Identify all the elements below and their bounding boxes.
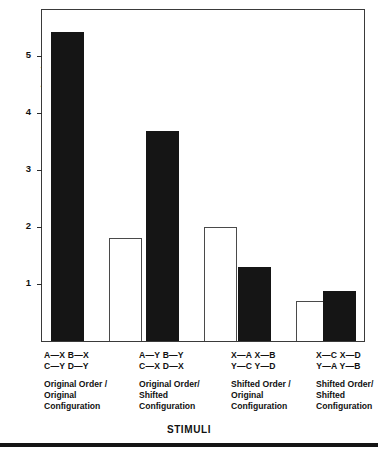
group-2-codes: A—Y B—YC—X D—X	[139, 350, 184, 372]
y-axis-tick-label-5: 5	[7, 49, 31, 60]
chart-figure: MEAN AMPLITUDE EYELID CLOSURE (mm) 12345…	[0, 0, 378, 451]
group-2-description-line2: Shifted	[139, 390, 200, 401]
bar-g2-filled	[146, 131, 179, 341]
group-3-codes: X—A X—BY—C Y—D	[231, 350, 276, 372]
group-3-description: Shifted Order /OriginalConfiguration	[231, 379, 291, 412]
bar-g1-open	[109, 238, 142, 341]
y-axis-tick-1	[37, 284, 42, 285]
group-2-code-line2: C—X D—X	[139, 361, 184, 372]
group-4-description-line2: Shifted	[316, 390, 373, 401]
group-2-description-line3: Configuration	[139, 401, 200, 412]
group-1-codes: A—X B—XC—Y D—Y	[44, 350, 89, 372]
group-2-description-line1: Original Order/	[139, 379, 200, 390]
group-1-description-line1: Original Order /	[44, 379, 107, 390]
plot-frame	[41, 9, 365, 342]
y-axis-tick-label-3: 3	[7, 163, 31, 174]
group-4-description-line1: Shifted Order/	[316, 379, 373, 390]
bar-g1-filled	[51, 32, 84, 341]
group-4-code-line2: Y—A Y—B	[316, 361, 361, 372]
group-1-code-line2: C—Y D—Y	[44, 361, 89, 372]
plot-area	[42, 10, 364, 341]
group-3-description-line1: Shifted Order /	[231, 379, 291, 390]
group-3-code-line1: X—A X—B	[231, 350, 276, 361]
group-3-description-line3: Configuration	[231, 401, 291, 412]
group-3-description-line2: Original	[231, 390, 291, 401]
group-1-code-line1: A—X B—X	[44, 350, 89, 361]
group-4-code-line1: X—C X—D	[316, 350, 361, 361]
group-1-description: Original Order /OriginalConfiguration	[44, 379, 107, 412]
y-axis-tick-4	[37, 113, 42, 114]
y-axis-tick-label-2: 2	[7, 220, 31, 231]
y-axis-tick-2	[37, 227, 42, 228]
y-axis-tick-3	[37, 170, 42, 171]
bar-g4-filled	[323, 291, 356, 341]
group-4-description-line3: Configuration	[316, 401, 373, 412]
y-axis-tick-label-4: 4	[7, 106, 31, 117]
bottom-rule	[0, 443, 378, 447]
group-4-codes: X—C X—DY—A Y—B	[316, 350, 361, 372]
bar-g2-open	[204, 227, 237, 341]
x-axis-title: STIMULI	[0, 424, 378, 435]
y-axis-tick-label-1: 1	[7, 277, 31, 288]
group-2-code-line1: A—Y B—Y	[139, 350, 184, 361]
group-4-description: Shifted Order/ShiftedConfiguration	[316, 379, 373, 412]
group-2-description: Original Order/ShiftedConfiguration	[139, 379, 200, 412]
y-axis-tick-5	[37, 56, 42, 57]
group-3-code-line2: Y—C Y—D	[231, 361, 276, 372]
group-1-description-line2: Original	[44, 390, 107, 401]
bar-g3-filled	[238, 267, 271, 341]
group-1-description-line3: Configuration	[44, 401, 107, 412]
